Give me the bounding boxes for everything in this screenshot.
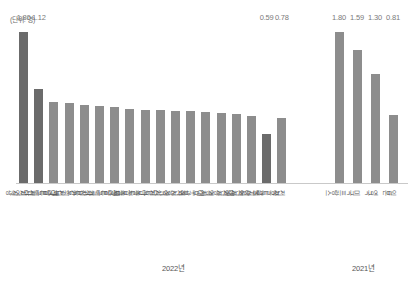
category-slot: 대전광역시	[213, 186, 228, 258]
category-slot: 전라북도	[138, 186, 153, 258]
bar	[141, 110, 150, 183]
bar-value-label: 1.12	[32, 13, 46, 22]
bar-value-label: 0.78	[275, 13, 289, 22]
year-labels: 2022년 2021년	[0, 262, 420, 282]
category-label: 전국	[272, 188, 285, 195]
bar	[65, 103, 74, 183]
bar-slot	[92, 24, 107, 183]
bar-value-label: 1.30	[368, 13, 382, 22]
bar	[389, 115, 398, 183]
bar-slot	[183, 24, 198, 183]
bar	[247, 116, 256, 183]
category-label: 미국	[347, 188, 360, 195]
category-slot: 충청북도	[122, 186, 137, 258]
category-slot: 강원도	[62, 186, 77, 258]
category-slot: 프랑스	[330, 186, 348, 258]
bar-slot	[62, 24, 77, 183]
plot-area: 1.801.120.590.78 1.801.591.300.81	[10, 24, 410, 184]
bar-slot: 1.30	[366, 24, 384, 183]
bar	[232, 114, 241, 183]
category-slot: 전국	[274, 186, 289, 258]
category-slot: 제주특별자치도	[92, 186, 107, 258]
category-slot: 전라남도	[46, 186, 61, 258]
bar-slot: 0.78	[274, 24, 289, 183]
bar	[335, 32, 344, 183]
category-label: 일본	[383, 188, 396, 195]
bar	[125, 109, 134, 183]
bar	[80, 105, 89, 183]
bar-slot	[46, 24, 61, 183]
bar-value-label: 0.81	[386, 13, 400, 22]
bar-value-label: 1.80	[332, 13, 346, 22]
bar-slot: 1.80	[330, 24, 348, 183]
bar	[34, 89, 43, 183]
category-slot: 대구광역시	[183, 186, 198, 258]
bar-group-2022: 1.801.120.590.78	[16, 24, 289, 183]
category-label: 영국	[365, 188, 378, 195]
bar-slot: 1.80	[16, 24, 31, 183]
bar-slot: 0.81	[384, 24, 402, 183]
bar	[371, 74, 380, 183]
bar-slot: 1.12	[31, 24, 46, 183]
bar	[262, 134, 271, 183]
chart-page: (단위: 명) 1.801.120.590.78 1.801.591.300.8…	[0, 0, 420, 302]
bar-slot	[198, 24, 213, 183]
bar-value-label: 1.59	[350, 13, 364, 22]
year-label-2022: 2022년	[162, 262, 185, 273]
category-slot: 영국	[366, 186, 384, 258]
bar	[49, 102, 58, 183]
year-label-2021: 2021년	[352, 262, 375, 273]
bar-slot	[77, 24, 92, 183]
category-slot: 세종특별자치시	[31, 186, 46, 258]
category-label: 프랑스	[326, 188, 346, 195]
bar	[156, 110, 165, 183]
bar-slot: 0.59	[259, 24, 274, 183]
bar	[186, 111, 195, 183]
bar-slot	[229, 24, 244, 183]
category-group-2021: 프랑스미국영국일본	[330, 186, 402, 258]
bar-slot	[153, 24, 168, 183]
bar	[171, 111, 180, 183]
category-slot: 광주광역시	[244, 186, 259, 258]
category-slot: 전남 영광	[16, 186, 31, 258]
bar	[201, 112, 210, 183]
bar-slot	[213, 24, 228, 183]
bar-slot	[107, 24, 122, 183]
category-slot: 서울특별시	[259, 186, 274, 258]
category-group-2022: 전남 영광세종특별자치시전라남도강원도경상북도제주특별자치도충청남도충청북도전라…	[16, 186, 289, 258]
bar-slot	[244, 24, 259, 183]
bar	[95, 106, 104, 183]
bar-slot	[138, 24, 153, 183]
category-labels: 전남 영광세종특별자치시전라남도강원도경상북도제주특별자치도충청남도충청북도전라…	[10, 186, 410, 258]
bar	[19, 32, 28, 183]
category-slot: 미국	[348, 186, 366, 258]
category-slot: 충청남도	[107, 186, 122, 258]
category-slot: 일본	[384, 186, 402, 258]
bar-slot: 1.59	[348, 24, 366, 183]
category-slot: 경상남도	[153, 186, 168, 258]
bar-value-label: 0.59	[260, 13, 274, 22]
category-slot: 인천광역시	[229, 186, 244, 258]
bar	[277, 118, 286, 183]
bar	[353, 50, 362, 183]
bar-slot	[122, 24, 137, 183]
bar-value-label: 1.80	[17, 13, 31, 22]
bar	[217, 113, 226, 183]
category-slot: 경기도	[198, 186, 213, 258]
bar-group-2021: 1.801.591.300.81	[330, 24, 402, 183]
category-slot: 울산광역시	[168, 186, 183, 258]
bar-slot	[168, 24, 183, 183]
category-slot: 경상북도	[77, 186, 92, 258]
bar	[110, 107, 119, 183]
x-axis-line	[16, 183, 408, 184]
